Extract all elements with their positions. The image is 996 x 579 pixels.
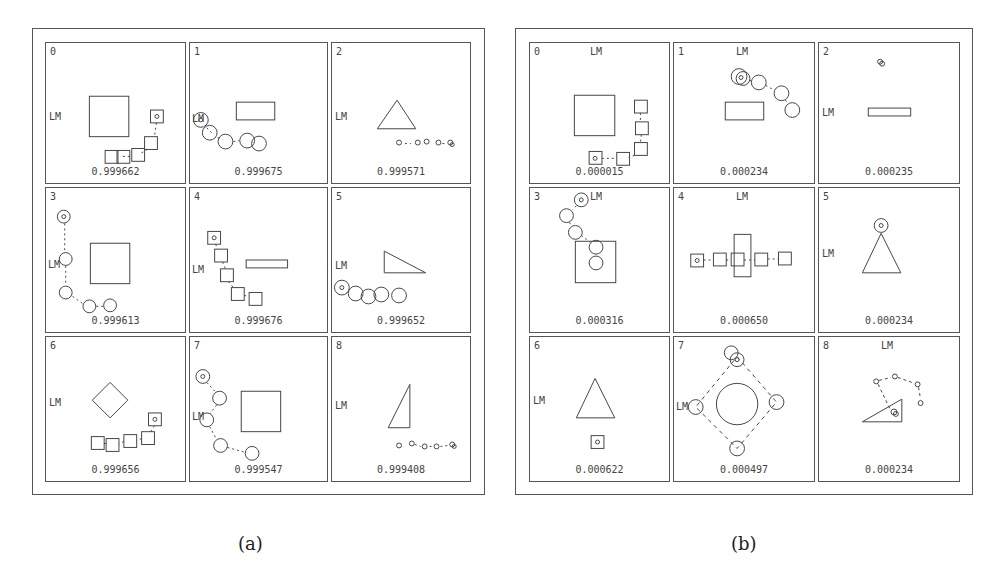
shape-scene bbox=[46, 337, 185, 481]
figure-b-cell-0: 0 LM 0.000015 bbox=[529, 42, 670, 184]
lm-label: LM bbox=[49, 397, 61, 408]
cell-score: 0.000235 bbox=[819, 166, 959, 177]
figure-a-cell-4: 4 LM 0.999676 bbox=[189, 187, 328, 333]
shape-scene bbox=[46, 188, 185, 332]
cell-score: 0.999662 bbox=[46, 166, 185, 177]
lm-label: LM bbox=[533, 395, 545, 406]
lm-label: LM bbox=[676, 401, 688, 412]
shape-scene bbox=[674, 337, 814, 481]
cell-score: 0.999408 bbox=[332, 464, 470, 475]
lm-label: LM bbox=[590, 191, 602, 202]
lm-label: LM bbox=[192, 113, 204, 124]
figure-b-cell-4: 4 LM 0.000650 bbox=[673, 187, 815, 333]
shape-scene bbox=[190, 337, 327, 481]
lm-label: LM bbox=[881, 340, 893, 351]
cell-score: 0.999675 bbox=[190, 166, 327, 177]
figure-a-cell-6: 6 LM 0.999656 bbox=[45, 336, 186, 482]
shape-scene bbox=[819, 337, 959, 481]
cell-score: 0.000234 bbox=[819, 464, 959, 475]
figure-b-cell-6: 6 LM 0.000622 bbox=[529, 336, 670, 482]
lm-label: LM bbox=[822, 107, 834, 118]
lm-label: LM bbox=[335, 400, 347, 411]
shape-scene bbox=[190, 188, 327, 332]
shape-scene bbox=[674, 43, 814, 183]
figure-a-cell-5: 5 LM 0.999652 bbox=[331, 187, 471, 333]
cell-score: 0.000622 bbox=[530, 464, 669, 475]
figure-a-cell-1: 1 LM 0.999675 bbox=[189, 42, 328, 184]
figure-a-cell-0: 0 LM 0.999662 bbox=[45, 42, 186, 184]
lm-label: LM bbox=[822, 248, 834, 259]
shape-scene bbox=[674, 188, 814, 332]
shape-scene bbox=[530, 43, 669, 183]
lm-label: LM bbox=[335, 260, 347, 271]
figure-b-cell-2: 2 LM 0.000235 bbox=[818, 42, 960, 184]
shape-scene bbox=[46, 43, 185, 183]
lm-label: LM bbox=[590, 46, 602, 57]
cell-score: 0.999652 bbox=[332, 315, 470, 326]
shape-scene bbox=[530, 337, 669, 481]
cell-score: 0.999656 bbox=[46, 464, 185, 475]
lm-label: LM bbox=[335, 111, 347, 122]
figure-a-cell-2: 2 LM 0.999571 bbox=[331, 42, 471, 184]
figure-a-cell-7: 7 LM 0.999547 bbox=[189, 336, 328, 482]
cell-score: 0.999547 bbox=[190, 464, 327, 475]
shape-scene bbox=[819, 188, 959, 332]
cell-score: 0.000234 bbox=[819, 315, 959, 326]
lm-label: LM bbox=[736, 191, 748, 202]
cell-score: 0.999571 bbox=[332, 166, 470, 177]
figure-b-cell-5: 5 LM 0.000234 bbox=[818, 187, 960, 333]
cell-score: 0.000497 bbox=[674, 464, 814, 475]
cell-score: 0.000316 bbox=[530, 315, 669, 326]
lm-label: LM bbox=[192, 264, 204, 275]
figure-b-cell-8: 8 LM 0.000234 bbox=[818, 336, 960, 482]
lm-label: LM bbox=[49, 111, 61, 122]
figure-a-cell-8: 8 LM 0.999408 bbox=[331, 336, 471, 482]
cell-score: 0.000650 bbox=[674, 315, 814, 326]
lm-label: LM bbox=[192, 411, 204, 422]
cell-score: 0.000015 bbox=[530, 166, 669, 177]
shape-scene bbox=[819, 43, 959, 183]
lm-label: LM bbox=[736, 46, 748, 57]
figure-b-cell-7: 7 LM 0.000497 bbox=[673, 336, 815, 482]
caption-a: (a) bbox=[238, 533, 263, 554]
shape-scene bbox=[332, 337, 470, 481]
figure-b-cell-1: 1 LM 0.000234 bbox=[673, 42, 815, 184]
shape-scene bbox=[530, 188, 669, 332]
lm-label: LM bbox=[48, 259, 60, 270]
figure-b-cell-3: 3 LM 0.000316 bbox=[529, 187, 670, 333]
cell-score: 0.999676 bbox=[190, 315, 327, 326]
shape-scene bbox=[190, 43, 327, 183]
cell-score: 0.999613 bbox=[46, 315, 185, 326]
figure-a-cell-3: 3 LM 0.999613 bbox=[45, 187, 186, 333]
shape-scene bbox=[332, 188, 470, 332]
shape-scene bbox=[332, 43, 470, 183]
cell-score: 0.000234 bbox=[674, 166, 814, 177]
caption-b: (b) bbox=[731, 533, 757, 554]
